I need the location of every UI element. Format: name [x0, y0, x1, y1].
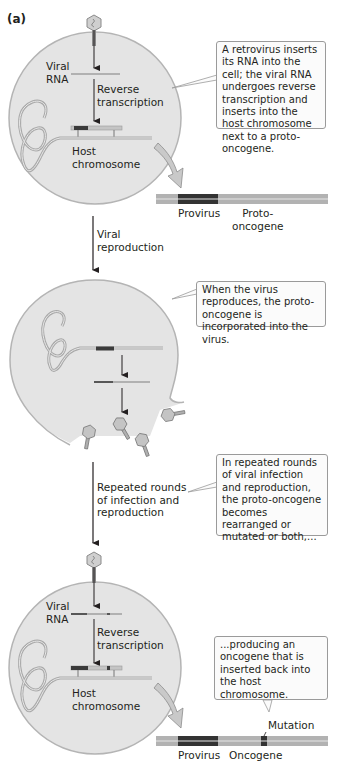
proto-oncogene-label: Proto-oncogene — [232, 207, 284, 232]
reverse-transcription-label: Reversetranscription — [97, 626, 164, 651]
gene-bar-oncogene — [156, 736, 328, 746]
host-chromosome-label: Hostchromosome — [72, 145, 140, 170]
callout-virus-reproduces: When the virus reproduces, the proto-onc… — [196, 281, 326, 327]
repeated-rounds-label: Repeated roundsof infection andreproduct… — [97, 481, 186, 519]
stage1-cell — [9, 32, 181, 204]
viral-reproduction-label: Viralreproduction — [97, 228, 164, 253]
host-chromosome-label: Hostchromosome — [72, 687, 140, 712]
mutation-label: Mutation — [268, 719, 314, 732]
panel-label: (a) — [7, 12, 26, 26]
callout-retrovirus-inserts: A retrovirus inserts its RNA into the ce… — [216, 41, 326, 129]
callout-producing-oncogene: ...producing an oncogene that is inserte… — [214, 636, 328, 700]
viral-rna-label: ViralRNA — [46, 60, 70, 85]
oncogene-label: Oncogene — [229, 749, 282, 762]
stage2-cell — [10, 280, 184, 445]
provirus-label: Provirus — [178, 749, 220, 762]
gene-bar-proto-oncogene — [156, 194, 328, 204]
callout-repeated-rounds: In repeated rounds of viral infection an… — [216, 454, 328, 536]
reverse-transcription-label: Reversetranscription — [97, 83, 164, 108]
provirus-label: Provirus — [178, 207, 220, 220]
viral-rna-label: ViralRNA — [46, 600, 70, 625]
